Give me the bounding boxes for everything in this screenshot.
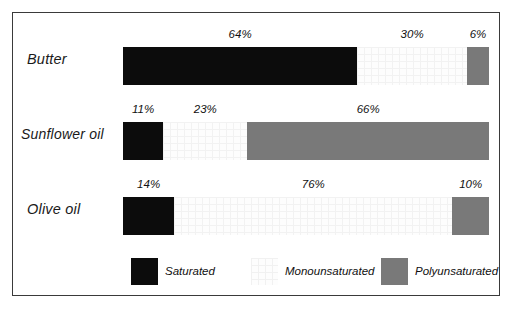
bar-value-label-monounsaturated: 23%	[163, 103, 247, 115]
chart-frame: Butter 64% 30% 6% Sunflower oil 11% 23% …	[12, 12, 500, 296]
legend-swatch-polyunsaturated-icon	[381, 258, 408, 285]
bar-value-label-polyunsaturated: 66%	[247, 103, 489, 115]
bar-segment-monounsaturated[interactable]: 30%	[357, 47, 467, 85]
bar-value-label-monounsaturated: 30%	[357, 28, 467, 40]
bar-segment-saturated[interactable]: 64%	[123, 47, 357, 85]
bar-value-label-polyunsaturated: 10%	[452, 178, 489, 190]
row-label-olive-oil: Olive oil	[13, 201, 113, 217]
row-label-butter: Butter	[13, 51, 113, 67]
bar-value-label-saturated: 14%	[123, 178, 174, 190]
bar-value-label-polyunsaturated: 6%	[467, 28, 489, 40]
chart-row-butter: Butter 64% 30% 6%	[13, 25, 499, 95]
row-label-sunflower-oil: Sunflower oil	[13, 126, 113, 142]
legend-swatch-monounsaturated-icon	[251, 258, 278, 285]
bar-value-label-saturated: 64%	[123, 28, 357, 40]
legend-item-monounsaturated[interactable]: Monounsaturated	[251, 255, 375, 287]
chart-row-olive-oil: Olive oil 14% 76% 10%	[13, 175, 499, 245]
legend-item-saturated[interactable]: Saturated	[131, 255, 215, 287]
bar-segment-monounsaturated[interactable]: 23%	[163, 122, 247, 160]
bar-segment-polyunsaturated[interactable]: 6%	[467, 47, 489, 85]
stacked-bar-butter: 64% 30% 6%	[123, 47, 489, 85]
stacked-bar-sunflower-oil: 11% 23% 66%	[123, 122, 489, 160]
chart-legend: Saturated Monounsaturated Polyunsaturate…	[13, 251, 499, 295]
bar-segment-polyunsaturated[interactable]: 66%	[247, 122, 489, 160]
stacked-bar-olive-oil: 14% 76% 10%	[123, 197, 489, 235]
chart-row-sunflower-oil: Sunflower oil 11% 23% 66%	[13, 100, 499, 170]
legend-item-polyunsaturated[interactable]: Polyunsaturated	[381, 255, 498, 287]
bar-segment-saturated[interactable]: 11%	[123, 122, 163, 160]
legend-label-polyunsaturated: Polyunsaturated	[415, 265, 498, 277]
bar-segment-polyunsaturated[interactable]: 10%	[452, 197, 489, 235]
bar-segment-saturated[interactable]: 14%	[123, 197, 174, 235]
legend-label-saturated: Saturated	[165, 265, 215, 277]
legend-swatch-saturated-icon	[131, 258, 158, 285]
bar-value-label-monounsaturated: 76%	[174, 178, 452, 190]
bar-segment-monounsaturated[interactable]: 76%	[174, 197, 452, 235]
legend-label-monounsaturated: Monounsaturated	[285, 265, 375, 277]
bar-value-label-saturated: 11%	[123, 103, 163, 115]
